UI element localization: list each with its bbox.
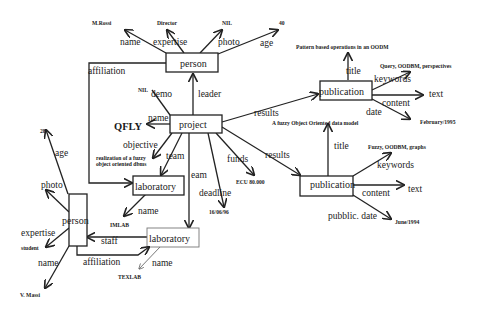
edge-label-team: team <box>166 151 185 161</box>
edge-label-date: pubblic. date <box>328 211 377 221</box>
edge-photo-arrow <box>46 190 69 212</box>
edge-label-affiliation-top: affiliation <box>88 66 126 76</box>
edge-label-name: name <box>120 37 141 47</box>
edge-affiliation-arrow <box>77 246 149 255</box>
edge-label-deadline: deadline <box>199 188 231 198</box>
person-top-label: person <box>180 58 207 69</box>
edge-label-keywords: keywords <box>377 160 414 170</box>
edge-label-staff: staff <box>101 236 119 246</box>
person-top-node: person name expertise photo age M.Rossi … <box>92 20 285 72</box>
laboratory-2-node: name TEXLAB staff laboratory <box>87 228 199 280</box>
edge-label-age: age <box>55 148 68 158</box>
edge-label-objective: objective <box>123 140 158 150</box>
value-pub1-keywords: Query, OODBM, perspectives <box>380 63 452 69</box>
value-nil-demo: NIL <box>138 87 148 93</box>
value-deadline: 16/06/96 <box>209 209 229 215</box>
person-left-label: person <box>62 215 89 226</box>
edge-label-leader: leader <box>198 89 222 99</box>
edge-label-content: content <box>362 188 390 198</box>
value-person-left-age: 28 <box>40 128 46 134</box>
edge-label-results1: results <box>254 108 279 118</box>
laboratory-2-label: laboratory <box>149 233 190 244</box>
value-director: Director <box>157 20 178 26</box>
publication-2-label: publication <box>310 179 355 190</box>
edge-label-name: name <box>148 113 169 123</box>
value-person-left-name: V. Massi <box>20 292 41 298</box>
publication-1-label: publication <box>319 86 364 97</box>
edge-label-affiliation: affiliation <box>83 257 121 267</box>
edge-label-keywords: keywords <box>374 74 411 84</box>
value-pub1-content: text <box>429 89 444 99</box>
edge-label-photo: photo <box>218 37 240 47</box>
value-qfly: QFLY <box>114 121 143 132</box>
value-funds: ECU 80.000 <box>236 179 265 185</box>
edge-label-name: name <box>152 258 173 268</box>
value-lab1-name: IMLAB <box>110 222 129 228</box>
edge-label-name: name <box>38 258 59 268</box>
value-m-rossi: M.Rossi <box>92 20 112 26</box>
value-nil-photo: NIL <box>222 20 232 26</box>
value-objective-line2: object oriented dbms <box>96 161 147 167</box>
person-left-node: age 28 photo expertise student name V. M… <box>20 128 149 298</box>
value-lab2-name: TEXLAB <box>118 274 141 280</box>
laboratory-1-node: name IMLAB laboratory <box>110 176 184 228</box>
edge-label-name: name <box>138 206 159 216</box>
value-age-40: 40 <box>279 20 285 26</box>
project-node: leader demo NIL name QFLY objective real… <box>96 74 318 228</box>
publication-1-node: title Pattern based operations in an OOD… <box>296 44 456 125</box>
project-label: project <box>179 119 207 130</box>
edge-label-results2: results <box>265 150 290 160</box>
edge-label-title: title <box>346 66 361 76</box>
edge-label-demo: demo <box>151 89 172 99</box>
value-pub1-title: Pattern based operations in an OODM <box>296 44 389 50</box>
value-pub2-keywords: Fuzzy, OODBM, graphs <box>368 144 427 150</box>
edge-label-photo: photo <box>41 180 63 190</box>
value-pub2-content: text <box>408 184 423 194</box>
edge-label-date: date <box>366 107 382 117</box>
edge-label-title: title <box>334 141 349 151</box>
edge-label-team2: eam <box>191 170 207 180</box>
edge-label-expertise: expertise <box>21 228 55 238</box>
value-pub1-date: February/1995 <box>420 119 456 125</box>
value-person-left-expertise: student <box>21 245 39 251</box>
value-pub2-date: June/1994 <box>395 219 419 225</box>
object-graph-diagram: person name expertise photo age M.Rossi … <box>0 0 486 315</box>
edge-label-expertise: expertise <box>153 37 187 47</box>
edge-label-funds: funds <box>227 154 248 164</box>
laboratory-1-label: laboratory <box>135 181 176 192</box>
value-pub2-title: A fuzzy Object Oriented data model <box>272 120 359 126</box>
edge-label-age: age <box>260 38 273 48</box>
